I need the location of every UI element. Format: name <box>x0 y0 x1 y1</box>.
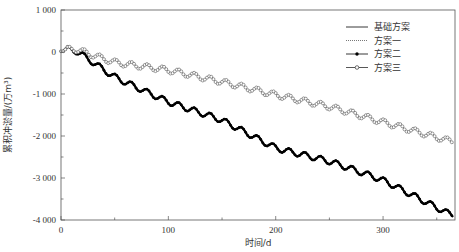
x-tick-label: 100 <box>162 225 176 235</box>
legend: 基础方案方案一方案二方案三 <box>346 21 410 72</box>
x-tick-label: 300 <box>376 225 390 235</box>
legend-label: 方案三 <box>374 62 401 73</box>
series-4 <box>60 45 454 143</box>
legend-item-2: 方案一 <box>346 35 401 46</box>
legend-label: 方案一 <box>374 35 401 46</box>
legend-item-1: 基础方案 <box>346 21 410 32</box>
legend-label: 基础方案 <box>374 21 410 32</box>
x-tick-label: 200 <box>269 225 283 235</box>
y-tick-label: 0 <box>52 47 57 57</box>
x-axis-title: 时间/d <box>245 237 272 248</box>
legend-label: 方案二 <box>374 48 401 59</box>
y-tick-label: 1 000 <box>36 5 57 15</box>
legend-item-4: 方案三 <box>346 62 401 73</box>
chart-canvas: 01002003001 0000-1 000-2 000-3 000-4 000… <box>0 0 459 252</box>
y-tick-label: -4 000 <box>33 215 57 225</box>
x-tick-label: 0 <box>59 225 64 235</box>
y-axis-title: 累积冲淤量/(万m³) <box>2 77 13 153</box>
legend-item-3: 方案二 <box>346 48 401 59</box>
y-tick-label: -2 000 <box>33 131 57 141</box>
y-tick-label: -3 000 <box>33 173 57 183</box>
y-tick-label: -1 000 <box>33 89 57 99</box>
